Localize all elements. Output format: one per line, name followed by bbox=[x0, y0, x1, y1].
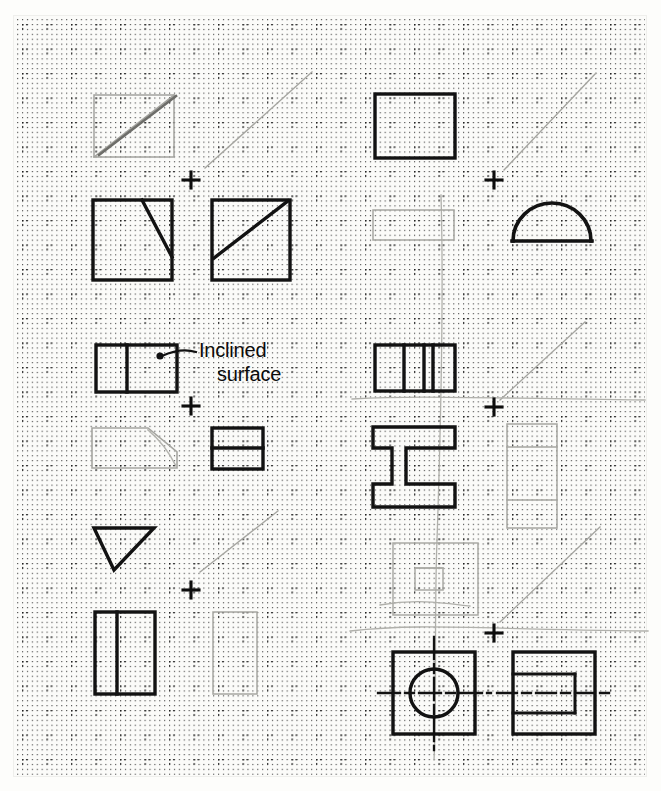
worksheet-canvas: Inclined surface bbox=[0, 0, 661, 791]
figure-dome-semicircle bbox=[512, 203, 592, 241]
figure-inclined-top-view[interactable] bbox=[96, 345, 177, 392]
figure-plain-rectangle-top-right bbox=[375, 94, 455, 158]
inclined-surface-label: Inclined surface bbox=[199, 338, 281, 387]
inclined-surface-label-line2: surface bbox=[217, 362, 281, 386]
reference-lines bbox=[350, 195, 648, 760]
figure-faint-tall-rectangle bbox=[213, 612, 257, 694]
figure-divided-rectangle bbox=[95, 612, 155, 694]
figure-inclined-front-faint bbox=[92, 428, 177, 468]
figure-faint-stacked-rectangle bbox=[507, 424, 557, 528]
figure-square-with-circle[interactable] bbox=[378, 637, 491, 750]
figure-top-left-faint-square bbox=[94, 95, 176, 157]
figure-front-view-notched-square bbox=[93, 200, 172, 280]
drawing-layer bbox=[0, 0, 661, 791]
figure-inverted-triangle bbox=[94, 528, 154, 570]
registration-crosshairs bbox=[183, 172, 502, 641]
inclined-surface-label-line1: Inclined bbox=[199, 338, 281, 362]
figure-side-view-diagonal-square bbox=[212, 200, 290, 280]
figure-ibeam-top-view bbox=[375, 345, 455, 391]
figure-ibeam-front-view bbox=[373, 427, 455, 507]
figure-inclined-side-view bbox=[212, 428, 263, 469]
figure-square-with-hidden-rect[interactable] bbox=[497, 652, 611, 734]
